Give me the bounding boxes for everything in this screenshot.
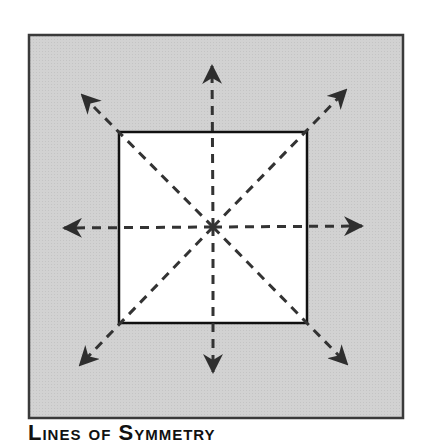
symmetry-arrow-up — [212, 66, 213, 227]
figure-caption: Lines of Symmetry — [28, 420, 216, 444]
center-point — [210, 224, 217, 231]
